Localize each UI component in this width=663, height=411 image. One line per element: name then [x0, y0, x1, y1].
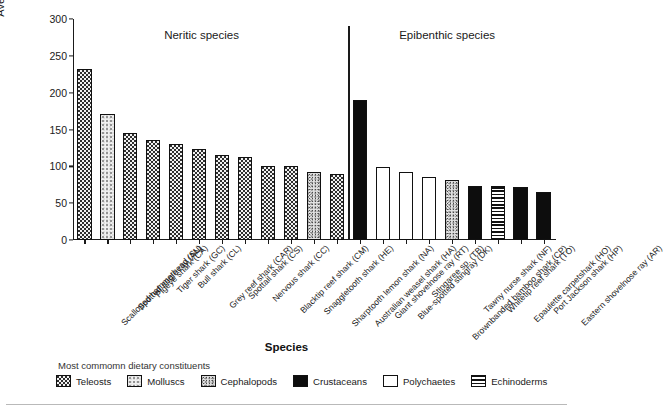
bar — [513, 187, 527, 240]
x-tick-mark — [199, 240, 200, 244]
y-tick-mark — [69, 55, 73, 56]
bar — [284, 166, 298, 240]
y-tick-mark — [69, 92, 73, 93]
group-label-epibenthic: Epibenthic species — [399, 29, 495, 41]
bar — [445, 180, 459, 240]
legend-label: Crustaceans — [313, 376, 367, 387]
legend-item: Echinoderms — [471, 375, 547, 387]
bar — [307, 172, 321, 241]
bar — [215, 155, 229, 240]
legend-title: Most commomn dietary constituents — [58, 360, 561, 371]
x-tick-mark — [245, 240, 246, 244]
x-tick-mark — [222, 240, 223, 244]
bar — [491, 186, 505, 240]
x-tick-mark — [521, 240, 522, 244]
y-axis-title: Average number of olfactory lamellae — [0, 0, 6, 24]
x-tick-mark — [383, 240, 384, 244]
bar — [422, 177, 436, 240]
legend-item: Cephalopods — [201, 375, 278, 387]
y-tick-mark — [69, 129, 73, 130]
group-label-neritic: Neritic species — [164, 29, 239, 41]
legend-swatch-crustaceans — [293, 375, 308, 387]
legend-swatch-teleosts — [56, 375, 71, 387]
bar — [536, 192, 550, 240]
x-tick-mark — [268, 240, 269, 244]
y-tick-mark — [69, 203, 73, 204]
x-tick-mark — [153, 240, 154, 244]
legend-label: Teleosts — [76, 376, 111, 387]
footer-divider — [6, 404, 567, 405]
y-tick-mark — [69, 166, 73, 167]
x-tick-mark — [475, 240, 476, 244]
bar — [169, 144, 183, 240]
x-tick-mark — [176, 240, 177, 244]
bar — [261, 166, 275, 240]
x-tick-mark — [337, 240, 338, 244]
bar — [238, 157, 252, 240]
x-tick-mark — [291, 240, 292, 244]
x-tick-mark — [406, 240, 407, 244]
bar — [330, 174, 344, 240]
legend-swatch-molluscs — [127, 375, 142, 387]
legend-label: Cephalopods — [221, 376, 278, 387]
x-tick-mark — [107, 240, 108, 244]
bar — [468, 186, 482, 241]
legend-label: Polychaetes — [403, 376, 455, 387]
legend: Most commomn dietary constituents Teleos… — [56, 360, 561, 387]
x-tick-mark — [314, 240, 315, 244]
legend-item: Polychaetes — [383, 375, 455, 387]
x-tick-mark — [498, 240, 499, 244]
x-tick-mark — [84, 240, 85, 244]
legend-label: Molluscs — [147, 376, 184, 387]
bar — [100, 114, 114, 240]
legend-item: Crustaceans — [293, 375, 367, 387]
legend-item: Molluscs — [127, 375, 184, 387]
x-axis-title: Species — [0, 341, 573, 353]
legend-swatch-cephalopods — [201, 375, 216, 387]
legend-swatch-echinoderms — [471, 375, 486, 387]
bar — [77, 69, 91, 240]
legend-label: Echinoderms — [491, 376, 547, 387]
bar — [376, 167, 390, 240]
bar — [399, 172, 413, 240]
group-divider-line — [348, 26, 349, 240]
legend-swatch-polychaetes — [383, 375, 398, 387]
plot-area: 050100150200250300 — [73, 19, 555, 240]
bar — [192, 149, 206, 240]
y-tick-mark — [69, 239, 73, 240]
x-tick-mark — [130, 240, 131, 244]
legend-item: Teleosts — [56, 375, 111, 387]
bar — [123, 133, 137, 240]
legend-items: TeleostsMolluscsCephalopodsCrustaceansPo… — [56, 375, 561, 387]
bar — [353, 100, 367, 240]
y-tick-mark — [69, 18, 73, 19]
bar — [146, 140, 160, 240]
